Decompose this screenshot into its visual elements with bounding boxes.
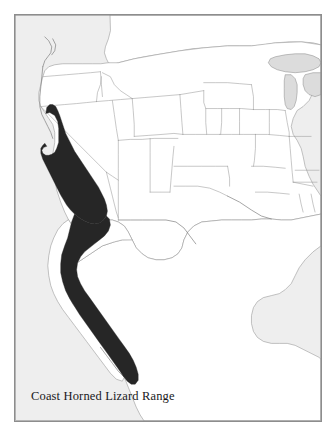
map-frame [14, 14, 322, 422]
map-caption: Coast Horned Lizard Range [31, 389, 175, 404]
map-svg [15, 15, 321, 421]
figure-container: Coast Horned Lizard Range [0, 0, 336, 442]
